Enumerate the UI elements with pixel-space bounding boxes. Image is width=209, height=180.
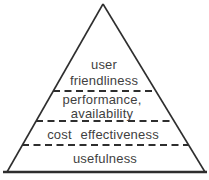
layer-text-line: cost effectiveness <box>47 128 159 142</box>
layer-user-friendliness: user friendliness <box>70 57 138 89</box>
layer-text-line: usefulness <box>73 152 137 166</box>
layer-performance-availability: performance, availability <box>63 93 142 121</box>
layer-text-line: availability <box>63 107 142 121</box>
layer-cost-effectiveness: cost effectiveness <box>47 128 159 142</box>
layer-usefulness: usefulness <box>73 152 137 166</box>
layer-text-line: user <box>70 57 138 73</box>
layer-text-line: friendliness <box>70 73 138 89</box>
pyramid-diagram: user friendliness performance, availabil… <box>0 0 209 180</box>
layer-text-line: performance, <box>63 93 142 107</box>
